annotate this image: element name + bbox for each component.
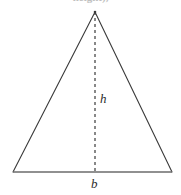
triangle-right-edge xyxy=(95,12,172,172)
triangle-figure-container: height), h b xyxy=(0,0,181,195)
apex-vertex-dot xyxy=(94,11,97,14)
triangle-left-edge xyxy=(13,12,95,172)
triangle-diagram-svg xyxy=(0,0,181,195)
height-label: h xyxy=(100,92,107,105)
base-label: b xyxy=(91,177,98,190)
